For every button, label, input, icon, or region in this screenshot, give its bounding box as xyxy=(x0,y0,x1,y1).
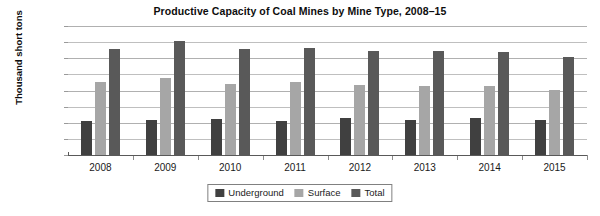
legend-swatch-surface-icon xyxy=(295,189,304,197)
x-axis-label-2009: 2009 xyxy=(135,162,195,173)
plot-area: 0400,000800,0001,200,0001,600,000 200820… xyxy=(68,26,587,155)
bar-underground-2015[interactable] xyxy=(535,120,546,155)
bar-group-2013 xyxy=(392,26,457,155)
legend-label: Total xyxy=(365,187,385,198)
chart-title: Productive Capacity of Coal Mines by Min… xyxy=(0,5,600,17)
bar-underground-2010[interactable] xyxy=(211,119,222,155)
legend-item-surface[interactable]: Surface xyxy=(295,187,341,198)
bar-group-2008 xyxy=(68,26,133,155)
bar-underground-2014[interactable] xyxy=(470,118,481,155)
x-axis-label-2012: 2012 xyxy=(330,162,390,173)
x-axis-label-2011: 2011 xyxy=(265,162,325,173)
x-axis-label-2014: 2014 xyxy=(460,162,520,173)
x-axis-label-2010: 2010 xyxy=(200,162,260,173)
bar-total-2012[interactable] xyxy=(368,51,379,155)
x-axis-tick-mark xyxy=(587,155,588,160)
x-axis-line xyxy=(68,155,587,156)
bar-group-2014 xyxy=(457,26,522,155)
bar-total-2008[interactable] xyxy=(109,49,120,155)
chart-legend: UndergroundSurfaceTotal xyxy=(207,184,392,202)
x-axis-label-2015: 2015 xyxy=(525,162,585,173)
bar-group-2010 xyxy=(198,26,263,155)
bar-underground-2013[interactable] xyxy=(405,120,416,155)
bar-group-2012 xyxy=(328,26,393,155)
bar-surface-2011[interactable] xyxy=(290,82,301,155)
bar-underground-2009[interactable] xyxy=(146,120,157,155)
legend-swatch-total-icon xyxy=(352,189,361,197)
legend-swatch-underground-icon xyxy=(215,189,224,197)
bar-surface-2015[interactable] xyxy=(549,90,560,155)
bar-surface-2009[interactable] xyxy=(160,78,171,155)
bar-surface-2008[interactable] xyxy=(95,82,106,155)
y-axis-line xyxy=(68,152,69,156)
bar-surface-2012[interactable] xyxy=(354,85,365,155)
bar-total-2009[interactable] xyxy=(174,41,185,155)
legend-item-total[interactable]: Total xyxy=(352,187,385,198)
chart-container: Productive Capacity of Coal Mines by Min… xyxy=(0,0,600,216)
legend-label: Surface xyxy=(308,187,341,198)
bar-surface-2013[interactable] xyxy=(419,86,430,155)
bar-underground-2011[interactable] xyxy=(276,121,287,155)
bar-underground-2008[interactable] xyxy=(81,121,92,155)
legend-label: Underground xyxy=(228,187,283,198)
bar-total-2013[interactable] xyxy=(433,51,444,155)
x-axis-label-2013: 2013 xyxy=(395,162,455,173)
bar-group-2009 xyxy=(133,26,198,155)
bar-group-2011 xyxy=(263,26,328,155)
bar-total-2015[interactable] xyxy=(563,57,574,155)
bar-total-2010[interactable] xyxy=(239,49,250,155)
bar-underground-2012[interactable] xyxy=(340,118,351,155)
bar-surface-2010[interactable] xyxy=(225,84,236,155)
bar-surface-2014[interactable] xyxy=(484,86,495,155)
bar-total-2014[interactable] xyxy=(498,52,509,155)
y-axis-title: Thousand short tons xyxy=(13,0,24,123)
legend-item-underground[interactable]: Underground xyxy=(215,187,283,198)
x-axis-label-2008: 2008 xyxy=(70,162,130,173)
bar-total-2011[interactable] xyxy=(304,48,315,155)
bar-group-2015 xyxy=(522,26,587,155)
